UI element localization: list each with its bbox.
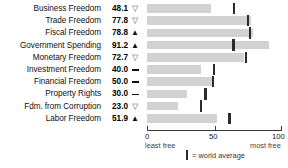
trend-flat-icon	[128, 65, 142, 75]
row-label-fiscal-freedom: Fiscal Freedom	[0, 28, 101, 38]
trend-down-icon: ▽	[128, 4, 142, 14]
world-average-tick-3	[232, 39, 234, 51]
trend-down-icon: ▽	[128, 102, 142, 112]
world-average-marker-icon	[186, 150, 188, 160]
world-average-tick-1	[247, 15, 249, 27]
legend-label-world-average: = world average	[192, 151, 245, 160]
row-label-investment-freedom: Investment Freedom	[0, 65, 101, 75]
x-axis-tick-100	[281, 126, 282, 131]
world-average-tick-8	[200, 100, 202, 112]
bar-trade-freedom	[147, 16, 251, 25]
world-average-tick-7	[204, 88, 206, 100]
row-label-business-freedom: Business Freedom	[0, 4, 101, 14]
row-label-property-rights: Property Rights	[0, 89, 101, 99]
plot-area	[147, 0, 282, 134]
row-label-financial-freedom: Financial Freedom	[0, 77, 101, 87]
axis-caption-least-free: least free	[145, 141, 175, 150]
world-average-tick-0	[233, 3, 235, 15]
legend: = world average	[186, 150, 245, 160]
row-value-government-spending: 91.2	[101, 41, 128, 51]
trend-up-icon: ▲	[128, 114, 142, 124]
x-axis-tick-0	[147, 126, 148, 131]
trend-flat-icon	[128, 77, 142, 87]
x-axis-label-50: 50	[209, 132, 217, 141]
row-label-monetary-freedom: Monetary Freedom	[0, 53, 101, 63]
world-average-tick-2	[249, 27, 251, 39]
freedom-index-bar-chart: Business Freedom 48.1 ▽ Trade Freedom 77…	[0, 0, 288, 168]
row-value-investment-freedom: 40.0	[101, 65, 128, 75]
x-axis-label-100: 100	[272, 132, 285, 141]
bar-business-freedom	[147, 4, 211, 13]
row-value-property-rights: 30.0	[101, 89, 128, 99]
world-average-tick-5	[213, 64, 215, 76]
row-value-fiscal-freedom: 78.8	[101, 28, 128, 38]
row-label-trade-freedom: Trade Freedom	[0, 16, 101, 26]
bar-financial-freedom	[147, 77, 214, 86]
row-value-business-freedom: 48.1	[101, 4, 128, 14]
bar-property-rights	[147, 90, 187, 99]
trend-down-icon: ▽	[128, 53, 142, 63]
trend-up-icon: ▲	[128, 41, 142, 51]
bar-fdm-from-corruption	[147, 102, 178, 111]
bar-monetary-freedom	[147, 53, 244, 62]
x-axis-tick-50	[215, 126, 216, 131]
row-label-government-spending: Government Spending	[0, 41, 101, 51]
bar-labor-freedom	[147, 114, 217, 123]
trend-down-icon: ▽	[128, 16, 142, 26]
bar-investment-freedom	[147, 65, 201, 74]
world-average-tick-4	[245, 52, 247, 64]
row-value-monetary-freedom: 72.7	[101, 53, 128, 63]
row-value-financial-freedom: 50.0	[101, 77, 128, 87]
row-value-trade-freedom: 77.8	[101, 16, 128, 26]
world-average-tick-9	[228, 113, 230, 125]
trend-up-icon: ▲	[128, 28, 142, 38]
axis-caption-most-free: most free	[250, 141, 281, 150]
row-value-labor-freedom: 51.9	[101, 114, 128, 124]
row-value-fdm-from-corruption: 23.0	[101, 102, 128, 112]
row-label-fdm-from-corruption: Fdm. from Corruption	[0, 102, 101, 112]
trend-flat-icon	[128, 89, 142, 99]
world-average-tick-6	[212, 76, 214, 88]
x-axis-label-0: 0	[145, 132, 149, 141]
bar-fiscal-freedom	[147, 29, 253, 38]
row-label-labor-freedom: Labor Freedom	[0, 114, 101, 124]
bar-government-spending	[147, 41, 269, 50]
